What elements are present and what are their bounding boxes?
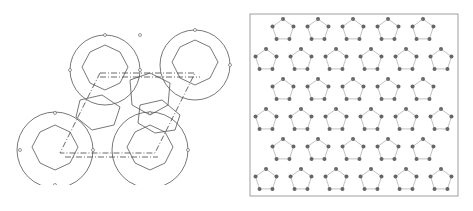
- atom-nodes: [19, 29, 232, 186]
- frame: [250, 14, 458, 196]
- cage-packing-diagram: [10, 25, 235, 185]
- cage-outlines: [17, 30, 230, 185]
- atomic-network-projection: [248, 12, 463, 202]
- unit-cell-outline: [60, 73, 200, 157]
- figure-caption: [60, 199, 440, 209]
- atom-network: [254, 17, 454, 191]
